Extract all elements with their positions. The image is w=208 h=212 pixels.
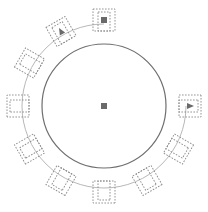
chair-left-upper xyxy=(14,48,44,78)
chair-bottom xyxy=(93,181,115,203)
chair-upper-left xyxy=(46,16,76,46)
chair-left xyxy=(7,95,29,117)
chair-seat-outline xyxy=(14,48,44,78)
square-marker-icon xyxy=(101,17,107,23)
chair-back-outline xyxy=(10,100,29,112)
triangle-marker-icon xyxy=(187,103,194,109)
chair-lower-left xyxy=(46,165,76,195)
chair-seat-outline xyxy=(163,134,193,164)
chair-top xyxy=(93,9,115,31)
chair-seat-outline xyxy=(46,165,76,195)
chair-left-lower xyxy=(14,134,44,164)
chair-right xyxy=(179,95,201,117)
table-center-marker-icon xyxy=(101,103,107,109)
chair-seat-outline xyxy=(132,165,162,195)
chair-back-outline xyxy=(98,181,110,200)
chair-seat-outline xyxy=(14,134,44,164)
chair-right-lower xyxy=(163,134,193,164)
round-table-diagram xyxy=(0,0,208,212)
chair-lower-right xyxy=(132,165,162,195)
